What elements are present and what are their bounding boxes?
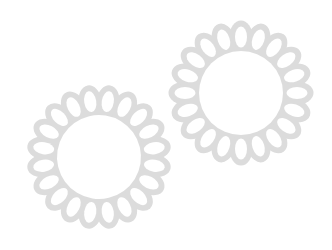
flower-illustration	[0, 0, 332, 250]
image-canvas	[0, 0, 332, 250]
